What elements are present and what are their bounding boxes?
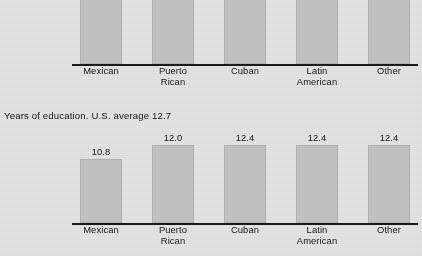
bar-cuban [224,0,266,64]
education-chart-plot-area: 10.8 12.0 12.4 12.4 12.4 [72,131,418,223]
income-chart-category-labels: Mexican PuertoRican Cuban LatinAmerican … [72,66,418,87]
edu-category-label-latin-american: LatinAmerican [288,225,346,246]
edu-bar-slot-other: 12.4 [360,131,418,223]
edu-bar-mexican [80,159,122,223]
education-chart-category-labels: Mexican PuertoRican Cuban LatinAmerican … [72,225,418,246]
category-label-puerto-rican: PuertoRican [144,66,202,87]
edu-bar-other [368,145,410,223]
edu-category-label-puerto-rican: PuertoRican [144,225,202,246]
bar-puerto-rican [152,0,194,64]
education-bar-group: 10.8 12.0 12.4 12.4 12.4 [72,131,418,223]
income-bar-chart-panel: $15,185 [0,0,422,66]
edu-bar-slot-latin-american: 12.4 [288,131,346,223]
education-chart-caption: Years of education. U.S. average 12.7 [4,110,171,121]
edu-bar-value-label-latin-american: 12.4 [308,133,327,142]
bar-other [368,0,410,64]
edu-category-label-cuban: Cuban [216,225,274,246]
edu-bar-value-label-cuban: 12.4 [236,133,255,142]
category-label-other: Other [360,66,418,87]
income-chart-plot-area: $15,185 [72,0,418,64]
bar-slot-cuban [216,0,274,64]
bar-slot-other [360,0,418,64]
edu-bar-value-label-other: 12.4 [380,133,399,142]
edu-bar-cuban [224,145,266,223]
bar-slot-mexican [72,0,130,64]
bar-mexican [80,0,122,64]
category-label-cuban: Cuban [216,66,274,87]
edu-bar-slot-mexican: 10.8 [72,131,130,223]
category-label-latin-american: LatinAmerican [288,66,346,87]
two-panel-bar-figure: $15,185 Mexican PuertoRican Cuban LatinA… [0,0,422,256]
income-bar-group: $15,185 [72,0,418,64]
edu-bar-value-label-puerto-rican: 12.0 [164,133,183,142]
edu-category-label-mexican: Mexican [72,225,130,246]
edu-bar-slot-puerto-rican: 12.0 [144,131,202,223]
edu-category-label-other: Other [360,225,418,246]
bar-slot-puerto-rican: $15,185 [144,0,202,64]
edu-bar-puerto-rican [152,145,194,223]
edu-bar-slot-cuban: 12.4 [216,131,274,223]
edu-bar-latin-american [296,145,338,223]
bar-latin-american [296,0,338,64]
category-label-mexican: Mexican [72,66,130,87]
bar-slot-latin-american [288,0,346,64]
edu-bar-value-label-mexican: 10.8 [92,147,111,156]
